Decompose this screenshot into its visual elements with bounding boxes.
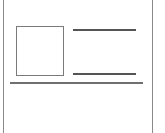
frame-left-border [3, 0, 4, 133]
divider [10, 82, 143, 84]
frame-right-border [152, 0, 153, 133]
text-line-bottom [73, 73, 136, 75]
image-placeholder [16, 26, 64, 76]
text-line-top [73, 29, 136, 31]
